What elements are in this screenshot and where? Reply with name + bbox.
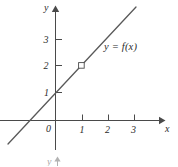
open-point-marker [79,63,85,69]
next-figure-axis [54,157,60,167]
function-line [8,7,136,144]
next-figure-y-axis-label: y [47,157,51,166]
y-axis-label: y [44,3,48,13]
graph-canvas [0,0,178,166]
y-tick-marks [56,40,63,93]
graph-figure: y x 0 1 2 3 1 2 3 y = f(x) y [0,0,178,166]
origin-label: 0 [46,124,51,134]
x-axis-label: x [165,124,169,134]
y-axis-arrow-icon [52,6,59,13]
x-tick-label-1: 1 [80,125,85,135]
y-tick-label-1: 1 [44,88,49,98]
x-tick-label-3: 3 [131,125,136,135]
x-tick-label-2: 2 [105,125,110,135]
y-tick-label-3: 3 [44,35,49,45]
x-tick-marks [83,115,135,121]
curve-label: y = f(x) [104,42,137,53]
y-tick-label-2: 2 [44,61,49,71]
next-figure-y-axis-arrow-icon [54,157,60,162]
